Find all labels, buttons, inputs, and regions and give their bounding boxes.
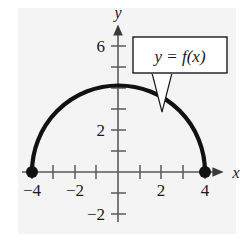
y-tick-label-6: 6 xyxy=(97,37,106,56)
endpoint-marker-right xyxy=(199,166,211,178)
x-tick-label--2: −2 xyxy=(66,181,84,200)
y-axis-label: y xyxy=(112,4,122,22)
figure-container: y = f(x) −4 −2 2 4 6 2 −2 y x xyxy=(0,0,250,242)
y-tick-label-2: 2 xyxy=(97,121,106,140)
x-axis-label: x xyxy=(231,164,239,181)
x-tick-label-4: 4 xyxy=(201,181,210,200)
endpoint-marker-left xyxy=(26,166,38,178)
x-tick-label-2: 2 xyxy=(157,181,166,200)
callout-label: y = f(x) xyxy=(152,47,205,66)
y-tick-label--2: −2 xyxy=(87,205,105,224)
x-tick-label--4: −4 xyxy=(23,181,42,200)
semicircle-plot: y = f(x) −4 −2 2 4 6 2 −2 y x xyxy=(0,0,250,242)
